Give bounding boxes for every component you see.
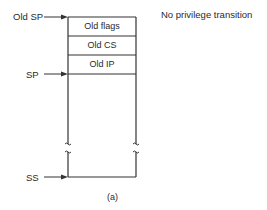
ss-arrow-icon bbox=[44, 175, 68, 180]
sp-arrow-icon bbox=[44, 72, 68, 77]
stack-cell-label: Old flags bbox=[84, 21, 120, 31]
sp-label: SP bbox=[26, 69, 39, 80]
stack-cell-old-flags: Old flags bbox=[68, 17, 136, 36]
stack-cell-old-ip: Old IP bbox=[68, 55, 136, 74]
stack-cell-label: Old CS bbox=[87, 40, 116, 50]
old-sp-label: Old SP bbox=[13, 11, 43, 22]
diagram-title: No privilege transition bbox=[161, 9, 252, 20]
stack-cell-label: Old IP bbox=[89, 59, 114, 69]
old-sp-arrow-icon bbox=[44, 15, 68, 20]
stack-cell-old-cs: Old CS bbox=[68, 36, 136, 55]
break-mark-right-icon bbox=[133, 143, 139, 153]
break-mark-left-icon bbox=[65, 143, 71, 153]
ss-label: SS bbox=[26, 172, 39, 183]
figure-caption: (a) bbox=[107, 192, 118, 203]
